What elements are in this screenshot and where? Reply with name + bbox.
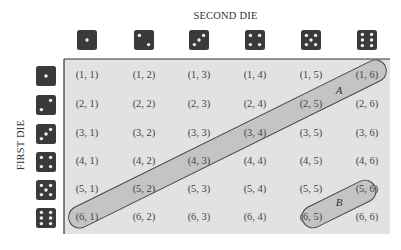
outcome-cell: (6, 6) [356,211,379,223]
outcome-cell: (5, 6) [356,183,379,195]
second-die-face-3-icon [189,30,209,50]
first-die-faces [36,66,56,228]
second-die-face-2-icon [134,30,154,50]
outcome-cell: (6, 4) [244,211,267,223]
outcome-cell: (2, 5) [300,98,323,110]
first-die-face-2-icon [36,95,56,115]
outcome-cell: (5, 2) [133,183,156,195]
outcome-cell: (4, 3) [188,155,211,167]
outcome-cell: (6, 5) [300,211,323,223]
first-die-face-6-icon [36,208,56,228]
outcome-cell: (1, 4) [244,69,267,81]
outcome-cell: (4, 4) [244,155,267,167]
outcome-cell: (1, 6) [356,69,379,81]
outcome-cell: (2, 3) [188,98,211,110]
outcome-cell: (5, 3) [188,183,211,195]
first-die-face-3-icon [36,124,56,144]
second-die-faces [77,30,377,50]
outcome-cell: (1, 1) [76,69,99,81]
outcome-cell: (2, 1) [76,98,99,110]
outcome-cell: (3, 1) [76,127,99,139]
first-die-face-4-icon [36,152,56,172]
outcome-cell: (5, 4) [244,183,267,195]
outcome-cell: (1, 3) [188,69,211,81]
first-die-face-5-icon [36,180,56,200]
outcome-cell: (1, 2) [133,69,156,81]
second-die-face-4-icon [245,30,265,50]
outcome-cell: (4, 2) [133,155,156,167]
event-b-label: B [336,196,343,208]
second-die-face-5-icon [301,30,321,50]
outcome-cell: (3, 2) [133,127,156,139]
outcome-cell: (3, 3) [188,127,211,139]
outcome-cell: (6, 3) [188,211,211,223]
second-die-face-6-icon [357,30,377,50]
outcome-cell: (5, 1) [76,183,99,195]
event-a-label: A [335,84,343,96]
outcome-cell: (4, 6) [356,155,379,167]
outcome-cell: (2, 4) [244,98,267,110]
outcome-cell: (3, 5) [300,127,323,139]
outcome-cell: (6, 1) [76,211,99,223]
outcome-cell: (4, 1) [76,155,99,167]
outcome-cell: (6, 2) [133,211,156,223]
outcome-cell: (5, 5) [300,183,323,195]
sample-space-diagram: (1, 1)(1, 2)(1, 3)(1, 4)(1, 5)(1, 6)(2, … [0,0,401,250]
outcome-cell: (2, 2) [133,98,156,110]
outcome-cell: (2, 6) [356,98,379,110]
outcome-cell: (3, 4) [244,127,267,139]
outcome-cell: (4, 5) [300,155,323,167]
second-die-face-1-icon [77,30,97,50]
outcome-cell: (1, 5) [300,69,323,81]
outcome-cell: (3, 6) [356,127,379,139]
first-die-face-1-icon [36,66,56,86]
